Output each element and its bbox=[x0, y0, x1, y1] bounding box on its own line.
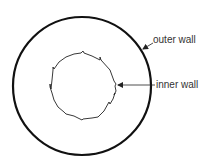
outer-wall-arrow bbox=[143, 43, 153, 49]
outer-wall-circle bbox=[13, 17, 151, 155]
outer-wall-label: outer wall bbox=[153, 35, 196, 45]
inner-wall-outline bbox=[50, 51, 116, 120]
inner-wall-label: inner wall bbox=[156, 80, 198, 90]
